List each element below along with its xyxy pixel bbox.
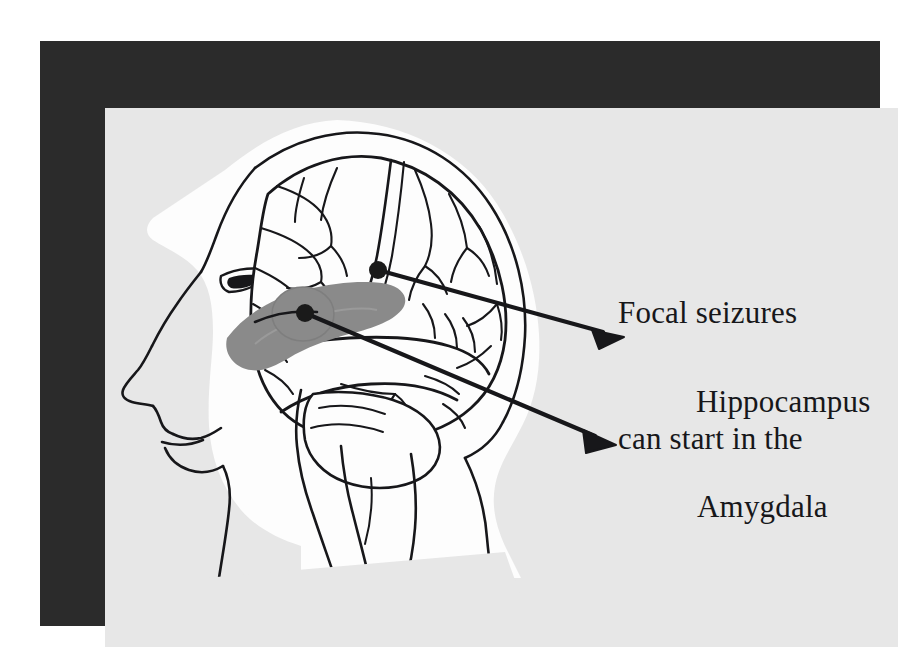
figure-root: Focal seizures can start in the Hippocam… xyxy=(0,0,923,658)
hippocampus-marker-dot xyxy=(369,261,387,279)
figure-panel: Focal seizures can start in the Hippocam… xyxy=(105,108,898,647)
amygdala-marker-dot xyxy=(296,304,314,322)
caption-line-1: Focal seizures xyxy=(618,292,803,334)
figure-frame-border: Focal seizures can start in the Hippocam… xyxy=(40,41,880,626)
caption-line-2: can start in the xyxy=(618,418,803,460)
label-amygdala: Amygdala xyxy=(697,489,828,525)
label-hippocampus: Hippocampus xyxy=(696,384,870,420)
